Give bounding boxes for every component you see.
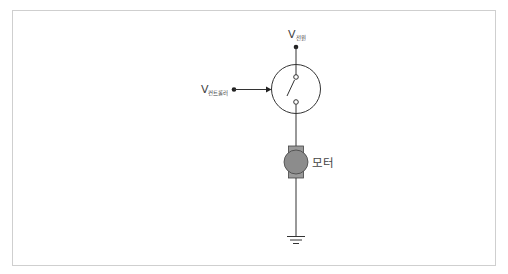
circuit-diagram: V 전원 V 컨트롤러 모터 — [0, 0, 508, 274]
power-label-main: V — [288, 28, 296, 41]
motor-body — [284, 150, 308, 174]
power-label-subscript: 전원 — [296, 34, 306, 41]
controller-label-subscript: 컨트롤러 — [208, 89, 228, 97]
power-supply-label: V 전원 — [288, 28, 306, 41]
switch-top-terminal — [294, 75, 299, 80]
switch-bottom-terminal — [294, 100, 299, 105]
switch-arm — [287, 80, 295, 96]
motor-label: 모터 — [312, 156, 334, 170]
controller-arrow-icon — [266, 87, 272, 93]
ground-icon — [287, 237, 305, 244]
controller-label: V 컨트롤러 — [201, 83, 228, 97]
dc-motor — [284, 146, 308, 178]
